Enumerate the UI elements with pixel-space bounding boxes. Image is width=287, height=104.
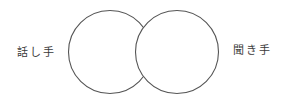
listener-label: 聞き手 [233, 44, 272, 58]
speaker-label: 話し手 [17, 46, 56, 60]
listener-circle [136, 11, 219, 94]
